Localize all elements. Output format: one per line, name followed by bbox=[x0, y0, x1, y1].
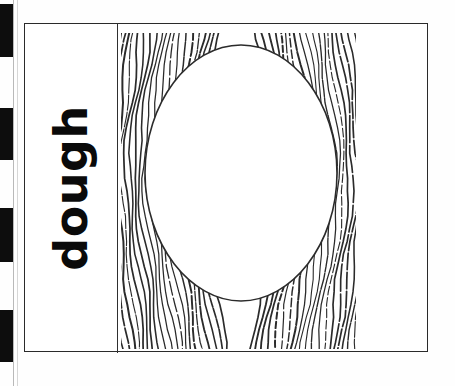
grain-line bbox=[135, 33, 153, 349]
grain-line bbox=[248, 33, 287, 349]
strip-edge-rule-secondary bbox=[17, 0, 18, 386]
strip-edge-rule bbox=[13, 0, 14, 386]
oval-outline bbox=[145, 45, 337, 301]
grain-line bbox=[305, 33, 334, 349]
grain-line bbox=[289, 33, 318, 349]
grain-line bbox=[275, 33, 304, 349]
timing-mark-4 bbox=[0, 310, 13, 362]
timing-mark-1 bbox=[0, 4, 13, 57]
vocabulary-word: dough bbox=[48, 105, 94, 270]
wood-grain-oval-illustration bbox=[121, 33, 356, 349]
grain-line bbox=[281, 33, 308, 349]
scanned-page: dough bbox=[0, 0, 455, 386]
scan-timing-mark-strip bbox=[0, 0, 14, 386]
timing-mark-2 bbox=[0, 108, 13, 160]
timing-mark-3 bbox=[0, 208, 13, 262]
vocabulary-word-text: dough bbox=[48, 105, 94, 270]
wood-grain-drawing bbox=[121, 33, 356, 349]
vertical-divider bbox=[117, 23, 118, 353]
word-panel: dough bbox=[24, 23, 117, 352]
grain-line bbox=[121, 33, 136, 349]
